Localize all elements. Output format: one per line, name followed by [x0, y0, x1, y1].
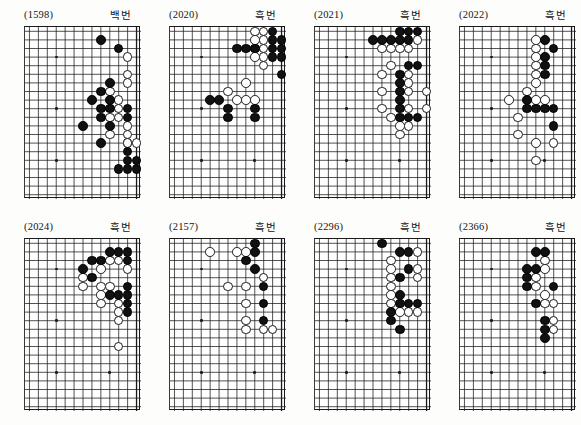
white-stone — [413, 35, 423, 45]
black-stone — [123, 164, 133, 174]
go-board — [169, 26, 285, 198]
panel-header: (2021)흑번 — [290, 6, 435, 22]
white-stone — [531, 282, 541, 292]
black-stone — [96, 35, 106, 45]
diagram-panel: (2157)흑번 — [145, 212, 290, 424]
black-stone — [395, 273, 405, 283]
black-stone — [250, 264, 260, 274]
problem-number: (2020) — [169, 9, 198, 20]
black-stone — [531, 264, 541, 274]
turn-indicator: 흑번 — [110, 219, 131, 234]
diagram-panel: (2366)흑번 — [435, 212, 580, 424]
star-point — [55, 107, 58, 110]
black-stone — [105, 78, 115, 88]
panel-header: (2022)흑번 — [435, 6, 580, 22]
black-stone — [250, 247, 260, 257]
star-point — [55, 371, 58, 374]
panel-header: (2157)흑번 — [145, 218, 290, 234]
white-stone — [504, 95, 514, 105]
star-point — [253, 371, 256, 374]
black-stone — [105, 104, 115, 114]
black-stone — [223, 113, 233, 123]
white-stone — [413, 247, 423, 257]
black-stone — [96, 87, 106, 97]
black-stone — [540, 333, 550, 343]
star-point — [200, 371, 203, 374]
star-point — [200, 159, 203, 162]
white-stone — [377, 87, 387, 97]
problem-number: (2296) — [314, 221, 343, 232]
white-stone — [386, 61, 396, 71]
board-gridlines — [315, 27, 431, 199]
star-point — [345, 107, 348, 110]
black-stone — [87, 273, 97, 283]
white-stone — [513, 130, 523, 140]
star-point — [108, 371, 111, 374]
black-stone — [96, 256, 106, 266]
white-stone — [96, 299, 106, 309]
problem-number: (2024) — [24, 221, 53, 232]
black-stone — [395, 325, 405, 335]
star-point — [543, 159, 546, 162]
star-point — [345, 371, 348, 374]
white-stone — [105, 130, 115, 140]
white-stone — [395, 130, 405, 140]
star-point — [490, 319, 493, 322]
white-stone — [223, 282, 233, 292]
diagram-panel: (2024)흑번 — [0, 212, 145, 424]
panel-grid: (1598)백번(2020)흑번(2021)흑번(2022)흑번(2024)흑번… — [0, 0, 580, 424]
black-stone — [540, 35, 550, 45]
problem-number: (2157) — [169, 221, 198, 232]
go-board — [459, 238, 575, 410]
star-point — [55, 319, 58, 322]
turn-indicator: 흑번 — [400, 7, 421, 22]
white-stone — [377, 104, 387, 114]
go-board — [314, 26, 430, 198]
white-stone — [531, 156, 541, 166]
white-stone — [205, 247, 215, 257]
black-stone — [250, 44, 260, 54]
diagram-panel: (2022)흑번 — [435, 0, 580, 212]
black-stone — [540, 247, 550, 257]
star-point — [543, 371, 546, 374]
black-stone — [105, 121, 115, 131]
black-stone — [96, 113, 106, 123]
black-stone — [404, 35, 414, 45]
white-stone — [531, 78, 541, 88]
star-point — [398, 159, 401, 162]
go-board — [169, 238, 285, 410]
diagram-panel: (2021)흑번 — [290, 0, 435, 212]
problem-number: (2021) — [314, 9, 343, 20]
diagram-panel: (1598)백번 — [0, 0, 145, 212]
turn-indicator: 흑번 — [400, 219, 421, 234]
turn-indicator: 백번 — [110, 7, 131, 22]
black-stone — [241, 256, 251, 266]
white-stone — [241, 299, 251, 309]
problem-number: (1598) — [24, 9, 53, 20]
star-point — [490, 371, 493, 374]
black-stone — [386, 316, 396, 326]
star-point — [200, 107, 203, 110]
star-point — [253, 159, 256, 162]
go-board — [24, 26, 140, 198]
star-point — [345, 319, 348, 322]
go-board — [459, 26, 575, 198]
turn-indicator: 흑번 — [255, 219, 276, 234]
turn-indicator: 흑번 — [545, 7, 566, 22]
white-stone — [223, 87, 233, 97]
diagram-sheet: (1598)백번(2020)흑번(2021)흑번(2022)흑번(2024)흑번… — [0, 0, 581, 425]
star-point — [398, 371, 401, 374]
black-stone — [404, 247, 414, 257]
black-stone — [277, 52, 287, 62]
problem-number: (2366) — [459, 221, 488, 232]
star-point — [200, 319, 203, 322]
black-stone — [96, 138, 106, 148]
white-stone — [513, 113, 523, 123]
star-point — [490, 107, 493, 110]
black-stone — [78, 121, 88, 131]
white-stone — [241, 325, 251, 335]
black-stone — [540, 70, 550, 80]
black-stone — [377, 239, 387, 249]
turn-indicator: 흑번 — [545, 219, 566, 234]
go-board — [314, 238, 430, 410]
